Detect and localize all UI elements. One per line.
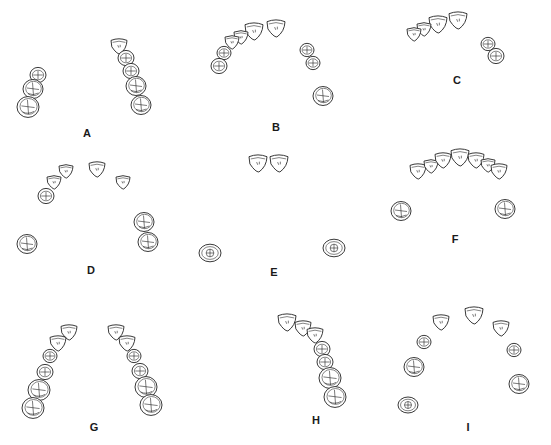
tooth-incisor-icon xyxy=(116,176,130,189)
tooth-molar-icon xyxy=(140,395,162,416)
panel-label-f: F xyxy=(452,234,459,245)
panel-b xyxy=(211,20,333,106)
panel-label-e: E xyxy=(270,267,277,278)
tooth-premolar-icon xyxy=(37,364,53,379)
panel-label-b: B xyxy=(272,122,280,133)
tooth-premolar-icon xyxy=(43,349,57,362)
tooth-molar-icon xyxy=(509,375,529,394)
tooth-molar-icon xyxy=(131,96,151,115)
tooth-molar-icon xyxy=(17,97,39,118)
tooth-incisor-icon xyxy=(465,307,483,324)
tooth-incisor-icon xyxy=(449,12,467,29)
tooth-canine-icon xyxy=(410,164,426,179)
tooth-incisor-icon xyxy=(278,314,296,331)
panel-c xyxy=(407,12,504,64)
tooth-premolar-icon xyxy=(211,58,227,73)
tooth-incisor-icon xyxy=(267,20,285,37)
tooth-incisor-icon xyxy=(270,155,288,172)
panel-e xyxy=(199,155,345,262)
panel-g xyxy=(22,325,162,419)
tooth-premolar-icon xyxy=(417,335,431,348)
panel-f xyxy=(391,149,515,221)
tooth-molar-icon xyxy=(17,235,37,254)
panel-label-d: D xyxy=(87,265,95,276)
tooth-molar-icon xyxy=(134,213,154,232)
panel-i xyxy=(398,307,529,413)
panel-label-g: G xyxy=(90,422,99,433)
tooth-premolar-icon xyxy=(488,48,504,63)
tooth-incisor-icon xyxy=(245,23,263,40)
dental-arch-drawings xyxy=(0,0,551,445)
tooth-molar-oval-icon xyxy=(199,244,221,262)
panel-h xyxy=(278,314,346,408)
panel-d xyxy=(17,162,158,254)
tooth-molar-oval-icon xyxy=(398,397,418,413)
tooth-canine-icon xyxy=(491,164,507,179)
tooth-premolar-icon xyxy=(38,188,54,203)
panel-label-i: I xyxy=(466,422,469,433)
tooth-canine-icon xyxy=(47,176,61,189)
tooth-canine-icon xyxy=(407,28,421,41)
panel-label-a: A xyxy=(83,128,91,139)
panel-label-h: H xyxy=(312,415,320,426)
tooth-canine-icon xyxy=(307,328,323,343)
tooth-molar-icon xyxy=(23,80,43,99)
tooth-premolar-icon xyxy=(217,46,231,59)
tooth-premolar-icon xyxy=(127,349,141,362)
tooth-molar-icon xyxy=(138,233,158,252)
tooth-molar-icon xyxy=(135,377,157,398)
tooth-incisor-icon xyxy=(119,336,135,351)
tooth-molar-icon xyxy=(313,87,333,106)
tooth-molar-icon xyxy=(391,202,411,221)
dental-arch-figure: A B C D E F G H I xyxy=(0,0,551,445)
tooth-premolar-icon xyxy=(300,43,314,56)
tooth-molar-icon xyxy=(404,358,424,377)
tooth-molar-icon xyxy=(324,387,346,408)
tooth-incisor-icon xyxy=(451,149,469,166)
tooth-molar-icon xyxy=(319,368,341,389)
tooth-incisor-icon xyxy=(493,321,509,336)
tooth-incisor-icon xyxy=(433,315,449,330)
tooth-molar-icon xyxy=(495,200,515,219)
tooth-molar-oval-icon xyxy=(323,239,345,257)
tooth-incisor-icon xyxy=(429,16,447,33)
tooth-incisor-icon xyxy=(59,165,73,178)
panel-label-c: C xyxy=(453,75,461,86)
tooth-molar-icon xyxy=(126,77,146,96)
tooth-molar-icon xyxy=(22,398,44,419)
tooth-premolar-icon xyxy=(306,56,320,69)
tooth-incisor-icon xyxy=(249,155,267,172)
tooth-incisor-icon xyxy=(89,162,105,177)
panel-a xyxy=(17,39,151,118)
tooth-premolar-icon xyxy=(507,343,521,356)
tooth-incisor-icon xyxy=(50,336,66,351)
